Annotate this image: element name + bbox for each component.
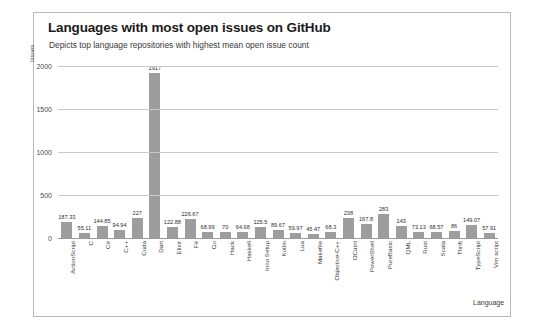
bar[interactable] <box>132 218 143 238</box>
x-category-label: QML <box>404 241 411 254</box>
x-category-label: Hack <box>228 241 235 255</box>
bar-value-label: 68.57 <box>429 224 443 230</box>
bar-value-label: 187.33 <box>58 214 75 220</box>
bar[interactable] <box>167 227 178 238</box>
bar-value-label: 68.99 <box>201 224 215 230</box>
bar-value-label: 68.3 <box>325 224 336 230</box>
x-category-label: Scala <box>439 241 446 256</box>
x-category-label: C <box>87 241 94 245</box>
bar[interactable] <box>273 230 284 238</box>
bar[interactable] <box>466 225 477 238</box>
x-category-label: C# <box>104 241 111 249</box>
bar-value-label: 283 <box>379 206 388 212</box>
bar[interactable] <box>396 226 407 238</box>
x-category-label: C++ <box>122 241 129 253</box>
x-category-label: Cuda <box>140 241 147 256</box>
bar-value-label: 89.67 <box>271 222 285 228</box>
x-category-label: Lua <box>298 241 305 251</box>
bar-value-label: 226.67 <box>181 211 198 217</box>
bar[interactable] <box>61 222 72 238</box>
y-tick-label: 500 <box>40 192 52 199</box>
chart-page: Languages with most open issues on GitHu… <box>0 0 544 336</box>
x-category-label: Inno Setup <box>263 241 270 271</box>
bar-value-label: 94.94 <box>113 222 127 228</box>
bar[interactable] <box>149 73 160 238</box>
y-tick-label: 2000 <box>36 63 52 70</box>
gridline <box>58 238 498 239</box>
x-category-label: Elixir <box>175 241 182 254</box>
bar-value-label: 144.85 <box>93 218 110 224</box>
y-tick-label: 1000 <box>36 149 52 156</box>
bar[interactable] <box>378 214 389 238</box>
bar-value-label: 55.11 <box>78 225 92 231</box>
bar-value-label: 143 <box>397 218 406 224</box>
y-axis-title: Issues <box>29 45 35 62</box>
x-category-label: Haskell <box>245 241 252 261</box>
bar[interactable] <box>255 227 266 238</box>
x-category-label: Go <box>210 241 217 249</box>
x-category-label: Makefile <box>316 241 323 264</box>
x-category-label: Kotlin <box>280 241 287 256</box>
y-tick-label: 0 <box>48 235 52 242</box>
bar-value-label: 57.91 <box>482 225 496 231</box>
bar-value-label: 59.97 <box>289 225 303 231</box>
gridline <box>58 195 498 196</box>
x-category-label: Objective-C++ <box>333 241 340 281</box>
y-axis-ticks: 0500100015002000 <box>0 66 55 238</box>
bar-value-label: 73.13 <box>412 224 426 230</box>
bar[interactable] <box>361 224 372 238</box>
x-category-label: Vim script <box>492 241 499 268</box>
bar[interactable] <box>114 230 125 238</box>
x-category-label: Dart <box>157 241 164 253</box>
bar-value-label: 86 <box>451 223 457 229</box>
bar[interactable] <box>185 219 196 238</box>
x-category-label: ActionScript <box>69 241 76 274</box>
y-tick-label: 1500 <box>36 106 52 113</box>
x-category-label: Rust <box>421 241 428 254</box>
bar-value-label: 64.68 <box>236 224 250 230</box>
bar-value-label: 70 <box>222 224 228 230</box>
gridline <box>58 152 498 153</box>
bar-value-label: 122.88 <box>164 219 181 225</box>
bar-value-label: 149.07 <box>463 217 480 223</box>
x-category-label: Thrift <box>456 241 463 255</box>
bar-value-label: 45.47 <box>306 226 320 232</box>
gridline <box>58 66 498 67</box>
bar-value-label: 238 <box>344 210 353 216</box>
x-category-label: TypeScript <box>474 241 481 270</box>
bar[interactable] <box>449 231 460 238</box>
bar[interactable] <box>97 226 108 238</box>
chart-subtitle: Depicts top language repositories with h… <box>49 40 309 50</box>
bar-value-label: 227 <box>133 210 142 216</box>
bar-value-label: 125.5 <box>253 219 267 225</box>
x-axis-categories: ActionScriptCC#C++CudaDartElixirF#GoHack… <box>58 241 498 301</box>
x-category-label: PowerShell <box>368 241 375 272</box>
bar-value-label: 167.8 <box>359 216 373 222</box>
bar[interactable] <box>343 218 354 238</box>
x-category-label: PureBasic <box>386 241 393 269</box>
x-category-label: F# <box>192 241 199 248</box>
x-category-label: OCaml <box>351 241 358 260</box>
chart-title: Languages with most open issues on GitHu… <box>48 20 331 35</box>
gridline <box>58 109 498 110</box>
